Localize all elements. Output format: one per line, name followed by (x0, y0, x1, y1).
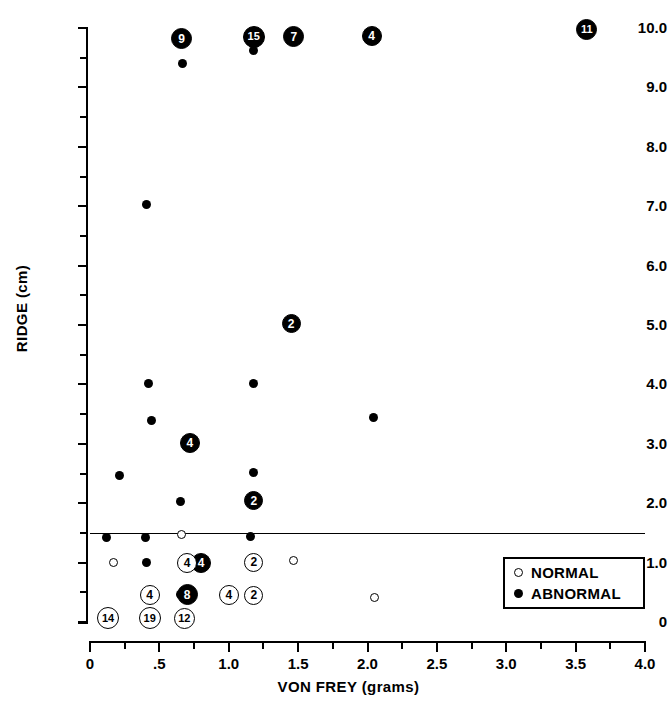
legend-label-normal: NORMAL (531, 564, 599, 581)
data-point-abnormal-count-9: 9 (171, 28, 192, 49)
data-point-abnormal (102, 533, 111, 542)
legend-label-abnormal: ABNORMAL (531, 585, 621, 602)
data-point-normal (177, 530, 186, 539)
data-point-abnormal-count-7: 7 (283, 26, 304, 47)
data-point-abnormal (142, 558, 151, 567)
data-point-abnormal (249, 46, 258, 55)
data-point-abnormal (369, 413, 378, 422)
legend-entry-abnormal: ABNORMAL (514, 585, 621, 602)
data-point-abnormal (115, 471, 124, 480)
data-point-normal-count-12: 12 (174, 608, 195, 629)
data-point-normal-count-4: 4 (177, 553, 197, 573)
filled-circle-icon (514, 589, 523, 598)
data-point-normal (109, 558, 118, 567)
legend-entry-normal: NORMAL (514, 564, 599, 581)
data-point-normal-count-19: 19 (139, 607, 161, 629)
data-point-normal-count-14: 14 (97, 607, 119, 629)
open-circle-icon (514, 568, 523, 577)
data-point-abnormal-count-15: 15 (243, 26, 265, 48)
data-point-normal-count-2: 2 (244, 586, 263, 605)
data-point-abnormal (141, 533, 150, 542)
data-point-abnormal (176, 497, 185, 506)
y-axis-title: RIDGE (cm) (13, 234, 30, 384)
data-point-abnormal-count-4: 4 (180, 433, 200, 453)
data-point-abnormal (246, 532, 255, 541)
data-point-abnormal-count-8: 8 (177, 584, 198, 605)
data-point-normal (289, 556, 298, 565)
data-point-abnormal (144, 379, 153, 388)
data-point-abnormal-count-2: 2 (244, 491, 263, 510)
data-point-abnormal-count-4: 4 (362, 26, 382, 46)
data-point-normal-count-4: 4 (140, 585, 160, 605)
legend: NORMAL ABNORMAL (503, 557, 645, 609)
data-point-abnormal (249, 468, 258, 477)
data-point-abnormal-count-2: 2 (282, 314, 301, 333)
data-point-abnormal (142, 200, 151, 209)
data-point-abnormal (147, 416, 156, 425)
data-point-abnormal-count-11: 11 (576, 19, 597, 40)
data-point-normal (370, 593, 379, 602)
x-axis-title: VON FREY (grams) (0, 678, 667, 695)
data-point-normal-count-2: 2 (244, 553, 263, 572)
data-point-abnormal (249, 379, 258, 388)
data-point-abnormal (178, 59, 187, 68)
data-point-normal-count-4: 4 (219, 585, 239, 605)
threshold-line (90, 533, 645, 534)
